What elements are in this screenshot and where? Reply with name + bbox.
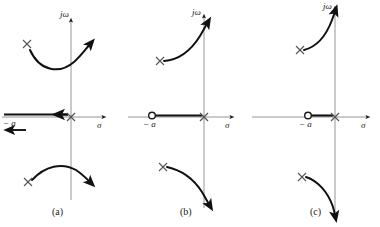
upper-branch-a bbox=[30, 43, 91, 69]
upper-branch-c bbox=[304, 10, 336, 50]
imaginary-axis-label-a: jω bbox=[60, 9, 69, 19]
real-axis-label-c: σ bbox=[361, 120, 365, 130]
panel-b-plot bbox=[126, 0, 253, 227]
real-axis-label-a: σ bbox=[97, 120, 101, 130]
lower-branch-a bbox=[32, 166, 91, 183]
zero-label-b: − a bbox=[143, 119, 156, 129]
panel-b: jω σ − a (b) bbox=[126, 0, 253, 227]
upper-complex-pole-c bbox=[296, 46, 304, 54]
zero-label-a: − a bbox=[3, 118, 16, 128]
open-loop-zero-c bbox=[305, 112, 312, 119]
caption-b: (b) bbox=[180, 206, 192, 217]
imaginary-axis-label-c: jω bbox=[323, 1, 332, 11]
real-axis-label-b: σ bbox=[225, 120, 229, 130]
root-locus-figure: jω σ − a (a) bbox=[0, 0, 380, 227]
open-loop-zero-b bbox=[149, 112, 156, 119]
panel-c-plot bbox=[252, 0, 379, 227]
panel-a-plot bbox=[0, 0, 127, 227]
imaginary-axis-label-b: jω bbox=[192, 7, 201, 17]
panel-a: jω σ − a (a) bbox=[0, 0, 127, 227]
lower-complex-pole-b bbox=[159, 163, 167, 171]
lower-complex-pole-a bbox=[24, 178, 32, 186]
caption-c: (c) bbox=[310, 206, 321, 217]
caption-a: (a) bbox=[52, 206, 63, 217]
zero-label-c: − a bbox=[299, 119, 312, 129]
upper-branch-b bbox=[164, 22, 208, 61]
upper-complex-pole-b bbox=[156, 57, 164, 65]
upper-complex-pole-a bbox=[23, 40, 31, 48]
panel-c: jω σ − a (c) bbox=[252, 0, 379, 227]
lower-complex-pole-c bbox=[298, 173, 306, 181]
